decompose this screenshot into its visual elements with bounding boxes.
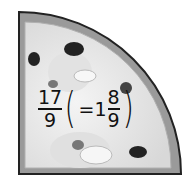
improper-fraction: 17 9 <box>38 88 62 130</box>
equals-sign: = <box>79 98 95 120</box>
mixed-fraction: 8 9 <box>108 88 120 130</box>
open-paren: ( <box>65 89 76 129</box>
close-paren: ) <box>122 89 133 129</box>
denominator: 9 <box>44 111 56 130</box>
numerator: 8 <box>108 88 120 107</box>
whole-number: 1 <box>95 98 107 120</box>
numerator: 17 <box>38 88 62 107</box>
fraction-label: 17 9 ( = 1 8 9 ) <box>38 88 136 130</box>
denominator: 9 <box>108 111 120 130</box>
